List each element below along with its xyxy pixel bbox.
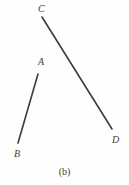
figure-caption: (b) [0,166,129,178]
segment-CD [42,17,112,129]
label-B: B [14,149,20,159]
label-A: A [38,57,44,67]
figure-panel-b: C A B D (b) [0,0,129,185]
label-D: D [112,135,119,145]
label-C: C [38,4,45,14]
segment-AB [18,74,38,143]
